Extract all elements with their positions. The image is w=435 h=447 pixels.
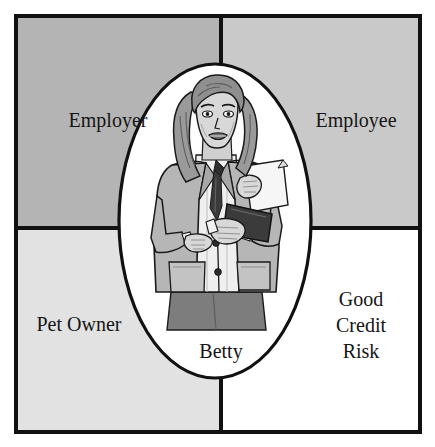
skirt-shape [167,292,266,330]
diagram-canvas: Employer Employee Pet Owner Good Credit … [0,0,435,447]
jacket-button-bottom [215,269,222,276]
jacket-right-pocket [237,262,270,290]
label-employer: Employer [69,109,148,132]
label-good-credit-risk-line2: Credit [336,314,386,336]
right-pupil [227,112,231,116]
label-good-credit-risk-line3: Risk [343,340,380,362]
label-pet-owner: Pet Owner [37,313,122,335]
left-pupil [206,112,210,116]
label-employee: Employee [315,109,396,132]
label-good-credit-risk: Good Credit Risk [336,288,386,362]
label-good-credit-risk-line1: Good [339,288,383,310]
venn-diagram-container: Employer Employee Pet Owner Good Credit … [0,0,435,447]
label-betty: Betty [199,340,242,363]
